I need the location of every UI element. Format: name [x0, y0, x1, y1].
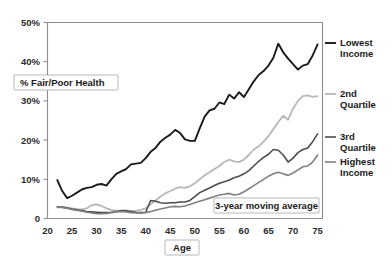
annotation-text: 3-year moving average	[215, 200, 318, 211]
y-axis-label: % Fair/Poor Health	[14, 75, 118, 90]
y-axis-tick-labels: 50% 40% 30% 20% 10% 0	[21, 17, 41, 224]
x-tick-label: 45	[165, 225, 176, 236]
legend-label-2nd-quartile-line1: 2nd	[340, 88, 357, 99]
chart-figure: 50% 40% 30% 20% 10% 0 20 25 30 35 40 45 …	[0, 0, 392, 262]
legend-label-3rd-quartile-line1: 3rd	[340, 131, 355, 142]
legend: Lowest Income 2nd Quartile 3rd Quartile …	[325, 37, 376, 178]
x-tick-label: 70	[288, 225, 299, 236]
legend-label-lowest-income-line2: Income	[340, 48, 373, 59]
x-axis-label: Age	[165, 240, 199, 255]
y-tick-label: 30%	[21, 95, 41, 106]
x-tick-label: 30	[91, 225, 102, 236]
x-tick-label: 25	[67, 225, 78, 236]
legend-label-lowest-income-line1: Lowest	[340, 37, 374, 48]
plot-frame	[48, 23, 323, 219]
x-tick-label: 40	[140, 225, 151, 236]
y-axis-ticks	[44, 23, 48, 219]
x-tick-label: 55	[214, 225, 225, 236]
x-tick-label: 20	[42, 225, 53, 236]
moving-average-annotation: 3-year moving average	[214, 198, 319, 213]
y-tick-label: 40%	[21, 56, 41, 67]
line-chart: 50% 40% 30% 20% 10% 0 20 25 30 35 40 45 …	[0, 0, 392, 262]
y-tick-label: 0	[35, 213, 40, 224]
y-tick-label: 10%	[21, 174, 41, 185]
x-tick-label: 65	[263, 225, 274, 236]
x-axis-label-text: Age	[173, 242, 191, 253]
y-tick-label: 20%	[21, 135, 41, 146]
legend-item-3rd-quartile[interactable]: 3rd Quartile	[325, 131, 376, 153]
x-tick-label: 35	[116, 225, 127, 236]
x-tick-label: 50	[190, 225, 201, 236]
legend-label-highest-income-line1: Highest	[340, 156, 376, 167]
legend-item-2nd-quartile[interactable]: 2nd Quartile	[325, 88, 376, 110]
y-tick-label: 50%	[21, 17, 41, 28]
x-tick-label: 75	[312, 225, 323, 236]
legend-label-3rd-quartile-line2: Quartile	[340, 142, 376, 153]
legend-label-2nd-quartile-line2: Quartile	[340, 99, 376, 110]
legend-item-lowest-income[interactable]: Lowest Income	[325, 37, 374, 59]
data-series-group	[57, 44, 317, 214]
y-axis-label-text: % Fair/Poor Health	[20, 77, 105, 88]
x-axis-tick-labels: 20 25 30 35 40 45 50 55 60 65 70 75	[42, 225, 323, 236]
series-line-2nd-quartile	[57, 95, 317, 211]
x-tick-label: 60	[239, 225, 250, 236]
legend-label-highest-income-line2: Income	[340, 167, 373, 178]
legend-item-highest-income[interactable]: Highest Income	[325, 156, 376, 178]
